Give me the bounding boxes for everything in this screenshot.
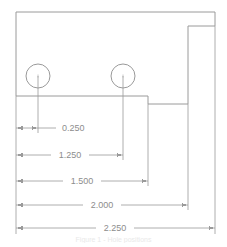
part-boundary-path xyxy=(16,12,215,104)
dim-label-2000: 2.000 xyxy=(91,200,114,210)
dimension-lines xyxy=(16,128,215,228)
dim-label-0250: 0.250 xyxy=(62,123,85,133)
dim-label-1500: 1.500 xyxy=(71,176,94,186)
drawing-svg: 0.250 1.250 1.500 2.000 2.250 xyxy=(0,0,227,247)
dim-label-2250: 2.250 xyxy=(104,223,127,233)
dimension-labels: 0.250 1.250 1.500 2.000 2.250 xyxy=(59,123,127,233)
extension-lines xyxy=(16,26,215,234)
engineering-drawing-canvas: 0.250 1.250 1.500 2.000 2.250 Figure 1 -… xyxy=(0,0,227,247)
figure-caption: Figure 1 - Hole positions xyxy=(0,236,227,243)
part-outline xyxy=(16,12,215,104)
hole-group xyxy=(26,64,135,88)
dim-label-1250: 1.250 xyxy=(59,150,82,160)
